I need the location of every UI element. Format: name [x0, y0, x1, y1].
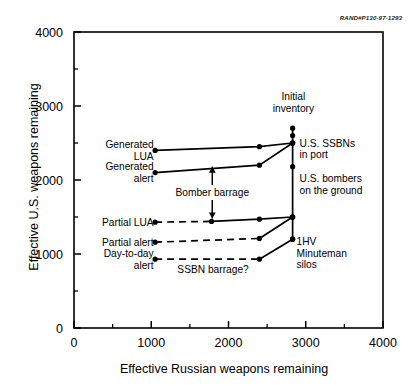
- data-point: [257, 163, 262, 168]
- annotation-line: Bomber barrage: [175, 187, 249, 198]
- annotation-day-to-day-alert: Day-to-dayalert: [104, 248, 155, 271]
- annotation-line: SSBN barrage?: [177, 264, 249, 275]
- series-line: [155, 143, 293, 150]
- annotation-partial-alert: Partial alert: [102, 237, 154, 248]
- x-tick-label: 4000: [369, 336, 397, 350]
- annotation-partial-lua: Partial LUA: [102, 217, 154, 228]
- annotation-line: Generated: [105, 139, 153, 150]
- x-tick-label: 0: [71, 336, 78, 350]
- annotation-line: on the ground: [300, 185, 363, 196]
- annotation-initial-inventory: Initialinventory: [273, 91, 315, 114]
- x-tick-label: 2000: [215, 336, 243, 350]
- data-point: [209, 219, 214, 224]
- annotation-line: LUA: [134, 151, 154, 162]
- annotation-us-ssbns-in-port: U.S. SSBNsin port: [300, 138, 355, 161]
- series-line: [212, 217, 293, 221]
- y-tick-label: 0: [56, 322, 63, 336]
- annotation-line: U.S. bombers: [300, 173, 362, 184]
- data-point: [257, 144, 262, 149]
- inventory-marker: [290, 164, 295, 169]
- series-line-dashed: [155, 238, 259, 242]
- series-line: [259, 217, 292, 238]
- annotation-bomber-barrage: Bomber barrage: [175, 187, 249, 198]
- annotation-line: U.S. SSBNs: [300, 138, 355, 149]
- inventory-marker: [290, 237, 295, 242]
- annotation-line: alert: [134, 260, 154, 271]
- annotation-line: Minuteman: [296, 248, 346, 259]
- x-tick-label: 3000: [292, 336, 320, 350]
- inventory-marker: [290, 126, 295, 131]
- series-line: [259, 239, 292, 259]
- chart-figure: RAND#P130-97-1293 Effective U.S. weapons…: [0, 0, 418, 389]
- annotation-line: Partial LUA: [102, 217, 154, 228]
- annotation-line: Generated: [105, 161, 153, 172]
- annotation-generated-lua: GeneratedLUA: [105, 139, 153, 162]
- data-point: [257, 217, 262, 222]
- annotation-line: Initial: [281, 91, 305, 102]
- annotation-ssbn-barrage: SSBN barrage?: [177, 264, 249, 275]
- annotation-line: inventory: [273, 103, 315, 114]
- data-point: [257, 236, 262, 241]
- series-line-dashed: [155, 221, 211, 222]
- inventory-marker: [290, 214, 295, 219]
- annotation-generated-alert: Generatedalert: [105, 161, 153, 184]
- y-tick-label: 1000: [35, 248, 63, 262]
- annotation-line: 1HV: [296, 236, 316, 247]
- annotation-line: silos: [296, 259, 316, 270]
- annotation-line: in port: [300, 149, 328, 160]
- y-tick-label: 4000: [35, 26, 63, 40]
- y-tick-label: 2000: [35, 174, 63, 188]
- plot-area: 0100020003000400001000200030004000Genera…: [0, 0, 418, 389]
- annotation-line: alert: [134, 173, 154, 184]
- inventory-marker: [290, 140, 295, 145]
- annotation-minuteman-silos: 1HVMinutemansilos: [296, 236, 346, 270]
- inventory-marker: [290, 133, 295, 138]
- annotation-line: Partial alert: [102, 237, 154, 248]
- annotation-us-bombers-on-ground: U.S. bomberson the ground: [300, 173, 363, 196]
- data-point: [257, 257, 262, 262]
- bomber-barrage-arrow-down-head: [209, 212, 216, 218]
- y-tick-label: 3000: [35, 100, 63, 114]
- x-tick-label: 1000: [137, 336, 165, 350]
- annotation-line: Day-to-day: [104, 248, 155, 259]
